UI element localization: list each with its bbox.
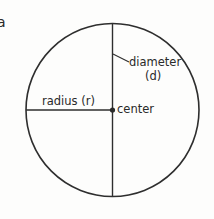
circle-diagram: a radius (r) diameter (d) center [0, 0, 214, 219]
center-point [110, 107, 115, 112]
diameter-leader-line [113, 54, 129, 62]
diameter-label: diameter [129, 55, 181, 69]
radius-label: radius (r) [42, 94, 95, 108]
diameter-symbol-label: (d) [145, 69, 161, 83]
center-label: center [117, 102, 154, 116]
cropped-text-fragment: a [0, 14, 6, 30]
